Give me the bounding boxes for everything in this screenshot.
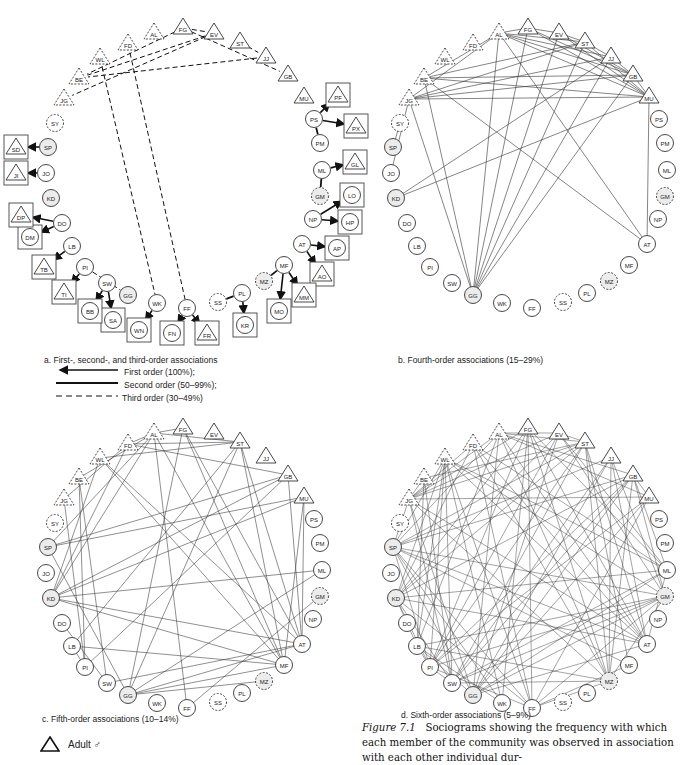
node-ss: SS [210,294,227,311]
offspring-pf: PF [326,83,350,107]
node-mf: MF [621,257,638,274]
offspring-bb: BB [78,299,102,323]
node-pm: PM [657,535,674,552]
node-pl: PL [234,685,251,702]
svg-text:MZ: MZ [260,679,269,685]
svg-text:EV: EV [555,432,563,438]
offspring-gl: GL [343,150,367,174]
node-gb: GB [278,465,298,481]
svg-text:NP: NP [309,617,317,623]
node-gg: GG [465,687,482,704]
svg-text:DO: DO [58,221,67,227]
svg-text:DO: DO [403,621,412,627]
node-sp: SP [385,539,402,556]
svg-text:LB: LB [68,244,75,250]
node-jo: JO [383,565,400,582]
node-sw: SW [444,675,461,692]
node-al: AL [144,423,164,439]
svg-text:AL: AL [150,432,158,438]
node-ps: PS [651,111,668,128]
svg-text:PS: PS [310,117,318,123]
node-ps: PS [306,111,323,128]
node-at: AT [639,636,656,653]
node-mo: MO [271,303,288,320]
node-al: AL [144,23,164,39]
svg-text:MU: MU [299,496,308,502]
svg-text:AL: AL [150,32,158,38]
node-fd: FD [118,434,138,450]
node-pi: PI [422,659,439,676]
svg-text:SW: SW [447,681,457,687]
node-do: DO [399,215,416,232]
node-mz: MZ [256,273,273,290]
offspring-hp: HP [338,210,362,234]
svg-text:BB: BB [86,309,94,315]
svg-text:DO: DO [403,221,412,227]
node-pm: PM [657,135,674,152]
node-jj: JJ [256,447,276,463]
node-pm: PM [312,535,329,552]
node-ff: FF [179,300,196,317]
svg-text:FD: FD [124,43,133,49]
node-jg: JG [54,89,74,105]
node-gm: GM [657,588,674,605]
node-be: BE [69,68,89,84]
svg-text:MU: MU [644,96,653,102]
svg-text:DM: DM [25,235,34,241]
svg-text:SD: SD [12,147,21,153]
node-at: AT [294,236,311,253]
svg-text:TB: TB [40,267,48,273]
svg-text:GG: GG [123,693,133,699]
svg-text:KD: KD [47,196,56,202]
node-be: BE [414,68,434,84]
svg-text:SS: SS [559,300,567,306]
svg-text:ST: ST [581,441,589,447]
node-pm: PM [312,135,329,152]
sociogram-panel-c: FDALFGEVSTJJGBMUWLBEJGSYSPJOKDDOLBPISWGG… [38,418,331,717]
svg-text:PS: PS [310,517,318,523]
svg-text:PS: PS [655,117,663,123]
node-at: AT [294,636,311,653]
node-mu: MU [294,487,314,503]
svg-text:GM: GM [660,594,670,600]
node-ff: FF [179,700,196,717]
svg-text:BE: BE [75,77,83,83]
node-mu: MU [639,487,659,503]
svg-text:WK: WK [497,301,507,307]
node-gg: GG [120,687,137,704]
svg-text:SY: SY [51,521,59,527]
legend-second-order: Second order (50–99%); [124,380,217,390]
svg-text:PM: PM [316,141,325,147]
node-wn: WN [131,322,148,339]
svg-text:PM: PM [661,141,670,147]
svg-text:FF: FF [183,706,191,712]
node-wk: WK [149,695,166,712]
node-ps: PS [651,511,668,528]
svg-text:TI: TI [61,292,67,298]
node-ml: ML [659,162,676,179]
node-mf: MF [276,257,293,274]
node-lb: LB [409,238,426,255]
node-ss: SS [210,694,227,711]
svg-text:PL: PL [583,691,591,697]
offspring-ao: AO [310,262,334,286]
svg-text:ST: ST [236,41,244,47]
node-sp: SP [40,539,57,556]
svg-text:WL: WL [441,457,451,463]
node-ev: EV [549,423,569,439]
svg-text:ST: ST [581,41,589,47]
svg-text:WL: WL [96,57,106,63]
svg-text:GL: GL [351,162,360,168]
node-fg: FG [518,18,538,34]
node-sy: SY [47,115,64,132]
svg-text:JG: JG [60,498,68,504]
svg-text:AT: AT [643,642,651,648]
svg-text:SP: SP [389,145,397,151]
svg-text:FD: FD [124,443,133,449]
node-mf: MF [621,657,638,674]
node-al: AL [489,23,509,39]
svg-text:DP: DP [17,215,25,221]
node-pi: PI [77,659,94,676]
node-st: ST [230,432,250,448]
